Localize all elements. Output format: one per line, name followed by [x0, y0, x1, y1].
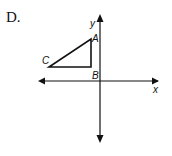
- vertex-b-label: B: [92, 70, 99, 81]
- y-axis-up-arrow-icon: [97, 14, 104, 22]
- y-axis-down-arrow-icon: [97, 135, 104, 143]
- coordinate-plane: y x A B C: [0, 0, 172, 156]
- x-axis-label: x: [152, 84, 159, 95]
- y-axis-label: y: [89, 18, 96, 29]
- vertex-c-label: C: [42, 55, 50, 66]
- vertex-a-label: A: [91, 33, 99, 44]
- x-axis-left-arrow-icon: [38, 78, 45, 85]
- triangle-abc: [49, 39, 91, 67]
